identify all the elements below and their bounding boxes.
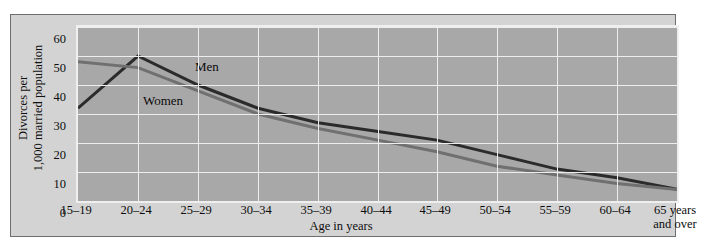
y-tick-50: 50 <box>42 62 66 74</box>
gridline-vertical <box>138 27 139 201</box>
gridline-vertical <box>378 27 379 201</box>
gridline-vertical <box>258 27 259 201</box>
y-axis-title-line1: Divorces per <box>16 76 30 140</box>
gridline-vertical <box>437 27 438 201</box>
gridline-vertical <box>497 27 498 201</box>
y-tick-60: 60 <box>42 33 66 45</box>
y-tick-20: 20 <box>42 149 66 161</box>
gridline-vertical <box>617 27 618 201</box>
y-tick-30: 30 <box>42 120 66 132</box>
gridline-vertical <box>318 27 319 201</box>
y-tick-40: 40 <box>42 91 66 103</box>
series-label-women: Women <box>143 93 183 109</box>
x-axis-title: Age in years <box>76 219 606 234</box>
gridline-vertical <box>557 27 558 201</box>
plot-area: Men Women <box>76 25 679 203</box>
plot-inner: Men Women <box>78 27 677 201</box>
x-tick-10: 65 years and over <box>636 203 702 231</box>
gridline-vertical <box>198 27 199 201</box>
y-tick-10: 10 <box>42 178 66 190</box>
